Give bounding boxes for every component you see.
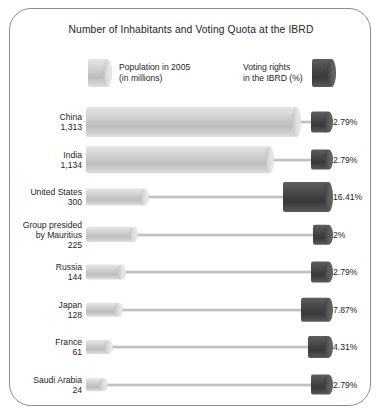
row-population-value: 144 xyxy=(8,272,82,282)
voting-cylinder xyxy=(308,336,329,358)
population-cylinder xyxy=(86,265,122,280)
chart-row: India1,1342.79% xyxy=(0,142,382,178)
row-graphic xyxy=(86,220,329,250)
row-population-value: 225 xyxy=(8,240,82,250)
row-country-name: Group presided xyxy=(8,219,82,229)
voting-percent-label: 2.79% xyxy=(333,117,357,127)
chart-row: China1,3132.79% xyxy=(0,104,382,140)
voting-cylinder xyxy=(311,374,329,395)
row-label: Japan128 xyxy=(8,299,82,319)
row-country-name: United States xyxy=(8,187,82,197)
population-cylinder xyxy=(86,107,297,137)
row-country-name: China xyxy=(8,112,82,122)
row-label: Russia144 xyxy=(8,262,82,282)
row-label: United States300 xyxy=(8,187,82,207)
row-label: India1,134 xyxy=(8,149,82,169)
row-population-value: 1,134 xyxy=(8,160,82,170)
connector-rod xyxy=(100,383,316,386)
row-country-name: Japan xyxy=(8,299,82,309)
connector-rod xyxy=(115,308,304,311)
row-graphic xyxy=(86,370,329,400)
voting-percent-label: 4.31% xyxy=(333,342,357,352)
row-country-name: Russia xyxy=(8,262,82,272)
voting-percent-label: 2.79% xyxy=(333,155,357,165)
row-population-value: 300 xyxy=(8,197,82,207)
row-label: Saudi Arabia24 xyxy=(8,374,82,394)
voting-cylinder xyxy=(313,224,329,244)
row-country-name: France xyxy=(8,337,82,347)
voting-cylinder xyxy=(283,182,329,212)
row-population-value: 1,313 xyxy=(8,122,82,132)
voting-percent-label: 7.87% xyxy=(333,305,357,315)
row-country-name: Saudi Arabia xyxy=(8,374,82,384)
row-graphic xyxy=(86,295,329,325)
voting-percent-label: 2.79% xyxy=(333,380,357,390)
population-cylinder xyxy=(86,378,104,391)
row-graphic xyxy=(86,332,329,362)
population-cylinder xyxy=(86,189,145,206)
voting-percent-label: 16.41% xyxy=(333,192,362,202)
row-population-value: 128 xyxy=(8,310,82,320)
population-cylinder xyxy=(86,146,270,174)
voting-cylinder xyxy=(301,297,329,321)
chart-row: France614.31% xyxy=(0,329,382,365)
chart-row: Saudi Arabia242.79% xyxy=(0,367,382,403)
population-cylinder xyxy=(86,302,119,317)
row-graphic xyxy=(86,107,329,137)
chart-row: Japan1287.87% xyxy=(0,292,382,328)
chart-row: Russia1442.79% xyxy=(0,254,382,290)
voting-percent-label: 2.79% xyxy=(333,267,357,277)
row-graphic xyxy=(86,257,329,287)
row-graphic xyxy=(86,145,329,175)
row-label: China1,313 xyxy=(8,112,82,132)
chart-rows: China1,3132.79%India1,1342.79%United Sta… xyxy=(0,0,382,416)
row-country-name: by Mauritius xyxy=(8,229,82,239)
population-cylinder xyxy=(86,340,109,354)
voting-percent-label: 2% xyxy=(333,230,345,240)
connector-rod xyxy=(141,196,287,199)
voting-cylinder xyxy=(311,112,329,133)
chart-row: Group presidedby Mauritius2252% xyxy=(0,217,382,253)
row-population-value: 61 xyxy=(8,347,82,357)
population-cylinder xyxy=(86,227,134,243)
connector-rod xyxy=(105,346,312,349)
row-population-value: 24 xyxy=(8,385,82,395)
row-country-name: India xyxy=(8,149,82,159)
voting-cylinder xyxy=(311,262,329,283)
row-label: France61 xyxy=(8,337,82,357)
connector-rod xyxy=(130,233,317,236)
row-graphic xyxy=(86,182,329,212)
chart-row: United States30016.41% xyxy=(0,179,382,215)
connector-rod xyxy=(118,271,316,274)
voting-cylinder xyxy=(311,149,329,170)
row-label: Group presidedby Mauritius225 xyxy=(8,219,82,250)
